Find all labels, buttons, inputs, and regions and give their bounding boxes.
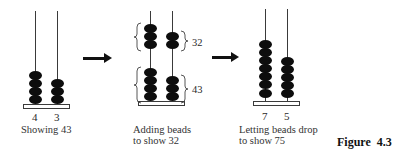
right-brace-upper-icon	[180, 30, 190, 52]
digit-label: 7	[262, 111, 268, 122]
digit-label: 4	[32, 112, 38, 123]
group-label-32: 32	[192, 37, 203, 48]
caption: to show 75	[239, 135, 285, 146]
caption: Showing 43	[21, 124, 71, 135]
bead	[166, 92, 179, 101]
abacus-base	[253, 101, 300, 106]
abacus-base	[138, 101, 185, 106]
bead	[144, 40, 157, 49]
right-brace-lower-icon	[180, 74, 190, 104]
right-arrow-icon	[83, 57, 106, 60]
bead	[281, 89, 294, 98]
bead	[29, 79, 42, 88]
digit-label: 5	[284, 111, 290, 122]
digit-label: 3	[54, 112, 60, 123]
caption: Adding beads	[133, 124, 191, 135]
left-brace-upper-icon	[133, 22, 143, 52]
bead	[51, 87, 64, 96]
caption: Letting beads drop	[239, 124, 318, 135]
bead	[259, 89, 272, 98]
bead	[51, 79, 64, 88]
bead	[144, 92, 157, 101]
bead	[166, 40, 179, 49]
right-arrow-icon	[212, 56, 233, 59]
figure-label: Figure 4.3	[337, 135, 392, 150]
bead	[51, 95, 64, 104]
bead	[29, 95, 42, 104]
bead	[29, 71, 42, 80]
group-label-43: 43	[192, 84, 203, 95]
abacus-base	[23, 104, 70, 109]
bead	[259, 80, 272, 89]
left-brace-lower-icon	[133, 66, 143, 104]
bead	[29, 87, 42, 96]
caption: to show 32	[133, 135, 179, 146]
